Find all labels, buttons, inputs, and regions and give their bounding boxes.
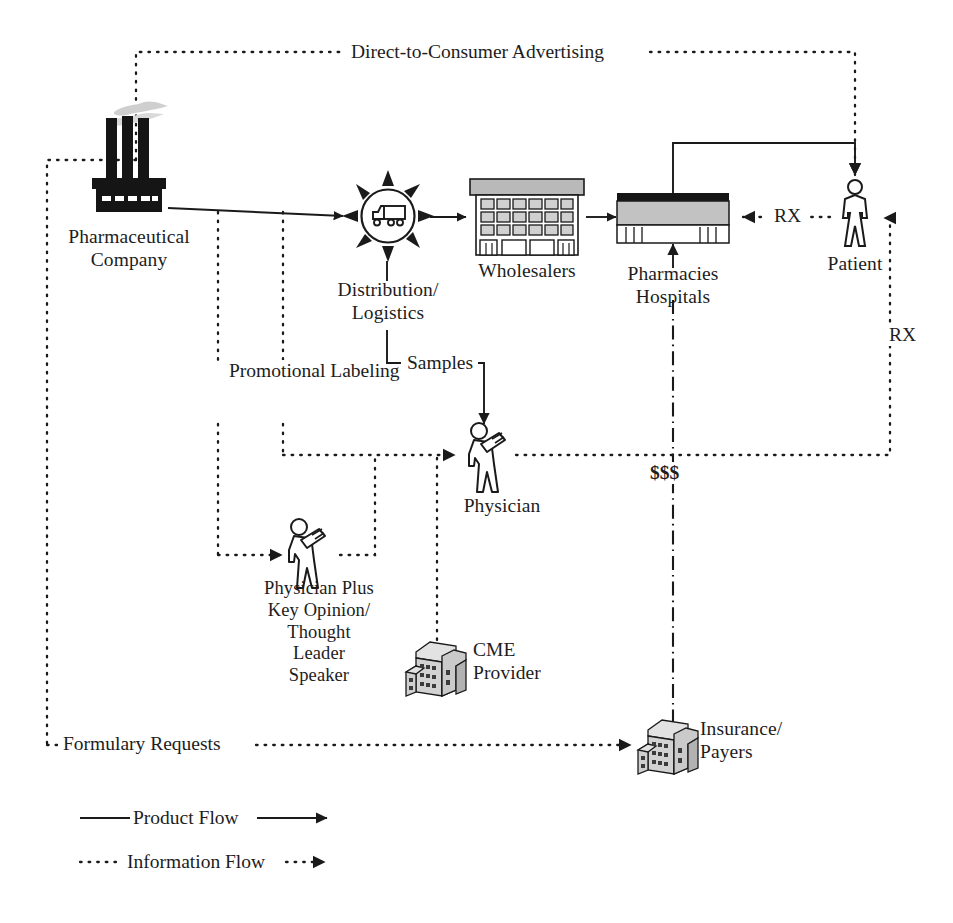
- legend-label-product-flow: Product Flow: [133, 807, 239, 829]
- node-physician[interactable]: [461, 418, 527, 496]
- node-distribution[interactable]: [340, 168, 436, 264]
- label-pharmacies: Pharmacies Hospitals: [603, 262, 743, 308]
- factory-icon: [84, 100, 174, 212]
- edge-company-to-distribution: [168, 208, 343, 216]
- node-pharma-company[interactable]: [84, 100, 174, 212]
- label-insurance-payers: Insurance/ Payers: [700, 717, 840, 763]
- legend-lines: [75, 800, 405, 890]
- pharmacy-building-icon: [616, 192, 730, 244]
- edge-label-formulary-requests: Formulary Requests: [58, 733, 226, 755]
- legend: Product Flow Information Flow: [75, 800, 405, 890]
- node-insurance-payers[interactable]: [636, 712, 706, 780]
- office-building-icon: [636, 712, 706, 780]
- edge-samples-left-leader: [387, 330, 401, 363]
- label-pharma-company: Pharmaceutical Company: [39, 225, 219, 271]
- node-pharmacies[interactable]: [616, 192, 730, 244]
- person-icon: [833, 178, 877, 250]
- label-cme-provider: CME Provider: [473, 638, 593, 684]
- label-patient: Patient: [795, 252, 915, 275]
- warehouse-building-icon: [468, 177, 586, 257]
- legend-label-information-flow: Information Flow: [127, 851, 265, 873]
- edge-label-rx-pharmacy: RX: [769, 205, 806, 227]
- edge-label-money: $$$: [645, 462, 684, 484]
- label-wholesalers: Wholesalers: [457, 259, 597, 282]
- edge-label-dtc-advertising: Direct-to-Consumer Advertising: [346, 41, 609, 63]
- node-wholesalers[interactable]: [468, 177, 586, 257]
- diagram-canvas: Pharmaceutical Company Dis: [0, 0, 953, 923]
- label-kol-speaker: Physician Plus Key Opinion/ Thought Lead…: [234, 578, 404, 687]
- office-building-icon: [404, 634, 474, 702]
- edge-label-promotional-labeling: Promotional Labeling: [224, 360, 352, 382]
- truck-in-circle-icon: [340, 168, 436, 264]
- node-cme-provider[interactable]: [404, 634, 474, 702]
- edge-label-rx-physician: RX: [884, 324, 921, 346]
- label-distribution: Distribution/ Logistics: [298, 278, 478, 324]
- physician-icon: [461, 418, 527, 496]
- edge-label-samples: Samples: [402, 352, 478, 374]
- node-patient[interactable]: [833, 178, 877, 250]
- label-physician: Physician: [432, 494, 572, 517]
- edge-pharmacies-to-patient: [673, 143, 855, 196]
- edge-dtc-advertising-right: [650, 52, 855, 175]
